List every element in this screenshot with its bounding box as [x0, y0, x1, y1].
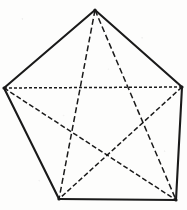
pentagon-diagram [0, 0, 187, 210]
diagonal-top-to-bottom-right [95, 10, 176, 200]
vertex-bottom-left [57, 197, 60, 200]
vertex-right [180, 85, 183, 88]
diagonal-left-to-right [4, 87, 182, 88]
vertex-top [93, 8, 96, 11]
edge-right-to-bottom-right [176, 87, 182, 200]
pentagon-diagonals-group [4, 10, 182, 200]
pentagon-diagram-canvas [0, 0, 187, 210]
edge-bottom-left-to-left [4, 88, 59, 199]
edge-bottom-right-to-bottom-left [59, 199, 176, 200]
vertex-bottom-right [174, 198, 177, 201]
edge-top-to-right [95, 10, 182, 87]
vertex-left [2, 86, 5, 89]
edge-left-to-top [4, 10, 95, 88]
diagonal-left-to-bottom-right [4, 88, 176, 200]
